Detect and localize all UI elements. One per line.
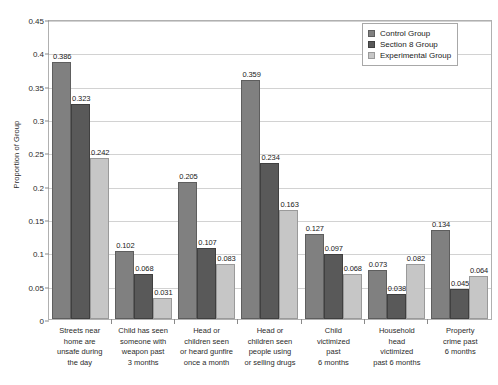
bar[interactable] [260,163,279,319]
x-axis-label-line: weapon past [113,347,172,358]
bar-value-label: 0.064 [470,266,488,275]
legend-item-label: Experimental Group [380,51,451,60]
x-axis-label-line: the day [50,358,109,369]
bar-value-label: 0.359 [242,70,260,79]
bar-wrap: 0.205 [178,21,197,319]
bar[interactable] [90,158,109,319]
x-axis-label-line: 6 months [304,358,363,369]
y-tick-label: 0 [40,317,44,326]
bar[interactable] [115,251,134,319]
x-axis-label-line: Head or [177,326,236,337]
x-axis-label-line: past [304,347,363,358]
legend-item-section8[interactable]: Section 8 Group [368,39,451,50]
bar-wrap: 0.083 [216,21,235,319]
bar-value-label: 0.102 [116,241,134,250]
legend-swatch-icon [368,30,375,37]
bar-wrap: 0.386 [52,21,71,319]
y-tick-label: 0.1 [33,250,44,259]
bar[interactable] [153,298,172,319]
x-tick-mark [301,319,302,324]
y-axis-title: Proportion of Group [12,95,21,215]
bar-group: 0.1020.0680.031 [112,21,175,319]
bar-value-label: 0.323 [72,94,90,103]
legend-item-label: Section 8 Group [380,40,438,49]
x-axis-label-line: Head or [240,326,299,337]
bar[interactable] [406,264,425,319]
bar[interactable] [469,276,488,319]
bar-wrap: 0.068 [134,21,153,319]
bar[interactable] [431,230,450,319]
bar-wrap: 0.234 [260,21,279,319]
x-tick-mark [237,319,238,324]
bar[interactable] [368,270,387,319]
bar-value-label: 0.031 [154,288,172,297]
bar-wrap: 0.068 [343,21,362,319]
bar[interactable] [197,248,216,319]
bar[interactable] [279,210,298,319]
x-axis-label-line: Child [304,326,363,337]
bar-group: 0.1270.0970.068 [302,21,365,319]
x-axis-label-line: victimized [367,347,426,358]
x-axis-label-line: or selling drugs [240,358,299,369]
x-axis-label: Head orchildren seenpeople usingor selli… [238,326,301,368]
bar[interactable] [324,254,343,319]
bar-value-label: 0.045 [451,279,469,288]
x-axis-label-line: children seen [240,337,299,348]
y-tick-label: 0.4 [33,50,44,59]
bar-wrap: 0.102 [115,21,134,319]
bar-chart: Proportion of Group 00.050.10.150.20.250… [0,0,498,385]
bar-value-label: 0.242 [91,148,109,157]
bar[interactable] [178,182,197,319]
bar-value-label: 0.205 [179,172,197,181]
x-axis-label: Householdheadvictimizedpast 6 months [365,326,428,368]
legend-item-experimental[interactable]: Experimental Group [368,50,451,61]
bar[interactable] [343,274,362,319]
bar-value-label: 0.097 [325,244,343,253]
x-axis-label-line: once a month [177,358,236,369]
bar-wrap: 0.242 [90,21,109,319]
x-axis-label-line: Child has seen [113,326,172,337]
bar[interactable] [52,62,71,319]
bar-value-label: 0.068 [135,264,153,273]
x-axis-label-line: Property [431,326,490,337]
legend: Control Group Section 8 Group Experiment… [362,23,458,66]
x-axis-label-line: or heard gunfire [177,347,236,358]
bar[interactable] [450,289,469,319]
legend-swatch-icon [368,41,375,48]
y-tick-label: 0.45 [28,17,44,26]
bar-wrap: 0.097 [324,21,343,319]
x-tick-mark [427,319,428,324]
bar-value-label: 0.234 [261,153,279,162]
x-axis-label-line: victimized [304,337,363,348]
bar-value-label: 0.386 [53,52,71,61]
bar-group: 0.3590.2340.163 [238,21,301,319]
x-axis-label: Head orchildren seenor heard gunfireonce… [175,326,238,368]
legend-item-label: Control Group [380,29,430,38]
bar[interactable] [305,234,324,319]
x-axis-label-line: home are [50,337,109,348]
bar-value-label: 0.127 [306,224,324,233]
x-axis-label: Child has seensomeone withweapon past3 m… [111,326,174,368]
x-axis-label-line: crime past [431,337,490,348]
x-axis-label-line: 6 months [431,347,490,358]
x-tick-mark [364,319,365,324]
bar[interactable] [71,104,90,319]
bar-value-label: 0.068 [344,264,362,273]
x-axis-label: Propertycrime past6 months [429,326,492,368]
y-tick-label: 0.3 [33,117,44,126]
x-axis-label: Childvictimizedpast6 months [302,326,365,368]
bar[interactable] [216,264,235,319]
bar-value-label: 0.073 [369,260,387,269]
legend-item-control[interactable]: Control Group [368,28,451,39]
bar-value-label: 0.134 [432,220,450,229]
bar-wrap: 0.127 [305,21,324,319]
bar[interactable] [387,294,406,319]
x-axis-label-line: children seen [177,337,236,348]
bar[interactable] [134,274,153,319]
bar-value-label: 0.083 [217,254,235,263]
bar-value-label: 0.082 [407,254,425,263]
y-tick-label: 0.25 [28,150,44,159]
x-axis-label: Streets nearhome areunsafe duringthe day [48,326,111,368]
bar[interactable] [241,80,260,319]
legend-swatch-icon [368,52,375,59]
